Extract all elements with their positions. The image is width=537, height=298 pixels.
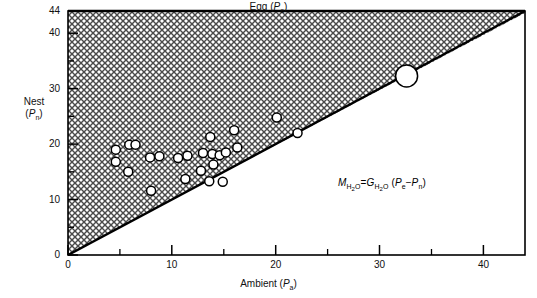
y-axis-title-line2: (Pn) [6,108,62,124]
y-axis-title-line1: Nest [24,96,45,107]
y-tick-label: 20 [32,139,60,149]
data-point-marker [131,140,140,149]
data-point-marker [147,186,156,195]
y-tick-label: 30 [32,84,60,94]
x-tick-label: 30 [365,260,395,270]
data-point-marker [221,148,230,157]
data-point-marker [206,132,215,141]
data-point-marker [209,160,218,169]
scatter-chart-figure: Egg (Pe) Nest (Pn) Ambient (Pa) MH2O=GH2… [0,0,537,298]
x-axis-title-text: Ambient (Pa) [240,278,297,289]
data-point-marker [196,166,205,175]
y-tick-label: 0 [32,250,60,260]
data-point-marker [183,151,192,160]
y-axis-title: Nest (Pn) [6,96,62,124]
data-point-marker [205,177,214,186]
data-point-marker [124,167,133,176]
x-tick-label: 10 [157,260,187,270]
data-point-marker [174,153,183,162]
data-point-marker [111,145,120,154]
data-point-marker [230,126,239,135]
x-tick-label: 0 [53,260,83,270]
data-point-marker [218,177,227,186]
plot-canvas [0,0,537,298]
top-axis-title: Egg (Pe) [0,1,537,17]
data-point-marker [293,129,302,138]
x-axis-title: Ambient (Pa) [0,278,537,294]
data-point-marker [155,152,164,161]
y-tick-label: 44 [32,6,60,16]
data-point-marker [272,113,281,122]
x-tick-label: 20 [261,260,291,270]
top-axis-title-text: Egg (Pe) [250,1,288,12]
data-point-marker [199,148,208,157]
data-point-marker [233,143,242,152]
x-tick-label: 40 [468,260,498,270]
data-point-marker [181,175,190,184]
y-tick-label: 40 [32,28,60,38]
data-point-marker [111,157,120,166]
equation-annotation: MH2O=GH2O (Pe−Pn) [338,177,426,192]
data-point-marker [146,153,155,162]
data-point-marker [396,65,418,87]
y-tick-label: 10 [32,195,60,205]
